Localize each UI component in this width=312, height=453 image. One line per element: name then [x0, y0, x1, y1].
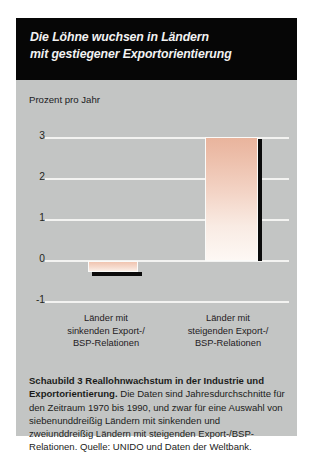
category-label-steigende: Länder mit steigenden Export-/ BSP-Relat…	[167, 312, 289, 350]
figure-panel: Die Löhne wuchsen in Ländern mit gestieg…	[16, 18, 297, 436]
x-axis-category-labels: Länder mit sinkenden Export-/ BSP-Relati…	[45, 312, 289, 368]
bar-steigende-export-bsp-relationen[interactable]	[205, 137, 258, 261]
bar-shadow-steigende	[258, 139, 262, 261]
bar-sinkende-export-bsp-relationen[interactable]	[88, 261, 138, 272]
y-tick-minus-1: -1	[25, 294, 45, 305]
bar-shadow-sinkende	[92, 272, 142, 276]
category-label-sinkende: Länder mit sinkenden Export-/ BSP-Relati…	[45, 312, 167, 350]
y-tick-2: 2	[25, 171, 45, 182]
category-label-steigende-line-1: Länder mit	[167, 312, 289, 325]
bar-fill-steigende	[205, 137, 258, 261]
figure-caption: Schaubild 3 Reallohnwachstum in der Indu…	[29, 374, 285, 453]
category-label-sinkende-line-1: Länder mit	[45, 312, 167, 325]
figure-title-line-1: Die Löhne wuchsen in Ländern	[30, 29, 297, 46]
figure-title-banner: Die Löhne wuchsen in Ländern mit gestieg…	[16, 18, 297, 80]
category-label-steigende-line-3: BSP-Relationen	[167, 337, 289, 350]
gridline-minus-1	[45, 301, 289, 303]
figure-title-line-2: mit gestiegener Exportorientierung	[30, 46, 297, 63]
chart-region: Prozent pro Jahr 3 2 1 0 -1	[16, 80, 297, 436]
category-label-sinkende-line-3: BSP-Relationen	[45, 337, 167, 350]
y-tick-3: 3	[25, 130, 45, 141]
y-tick-0: 0	[25, 253, 45, 264]
category-label-sinkende-line-2: sinkenden Export-/	[45, 325, 167, 338]
plot-area: 3 2 1 0 -1	[16, 80, 297, 310]
y-tick-1: 1	[25, 212, 45, 223]
bar-fill-sinkende	[88, 261, 138, 272]
category-label-steigende-line-2: steigenden Export-/	[167, 325, 289, 338]
